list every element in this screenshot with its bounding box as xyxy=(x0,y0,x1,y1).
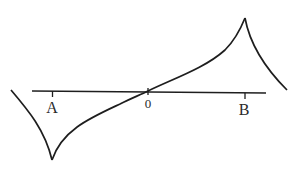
diagram-canvas: A 0 B xyxy=(0,0,290,173)
curve-right-branch xyxy=(245,18,287,90)
label-a: A xyxy=(46,99,58,116)
label-origin: 0 xyxy=(145,96,152,111)
label-b: B xyxy=(239,101,250,118)
